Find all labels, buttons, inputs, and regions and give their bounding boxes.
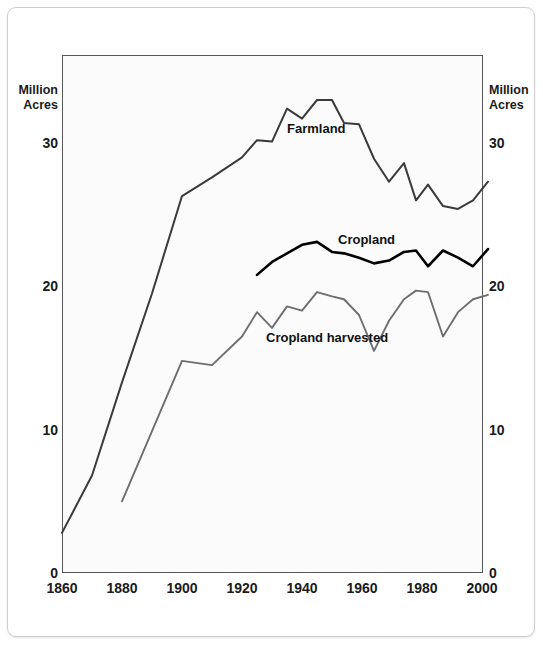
y-axis-left-tick-10: 10 [0, 423, 58, 437]
y-axis-right-tick-20: 20 [489, 279, 543, 293]
plot-area [62, 55, 483, 573]
y-axis-right-tick-30: 30 [489, 136, 543, 150]
y-axis-left-tick-30: 30 [0, 136, 58, 150]
left-axis-caption: Million Acres [0, 83, 58, 112]
y-axis-left-tick-0: 0 [0, 566, 58, 580]
y-axis-right-tick-0: 0 [489, 566, 543, 580]
x-axis-tick-2000: 2000 [447, 581, 517, 595]
y-axis-left-tick-20: 20 [0, 279, 58, 293]
right-axis-caption: Million Acres [489, 83, 543, 112]
line-chart: Million Acres Million Acres 0102030 0102… [0, 0, 543, 650]
series-label-cropland: Cropland [338, 232, 395, 247]
y-axis-right-tick-10: 10 [489, 423, 543, 437]
series-label-farmland: Farmland [287, 121, 346, 136]
series-label-cropland-harvested: Cropland harvested [266, 330, 388, 345]
